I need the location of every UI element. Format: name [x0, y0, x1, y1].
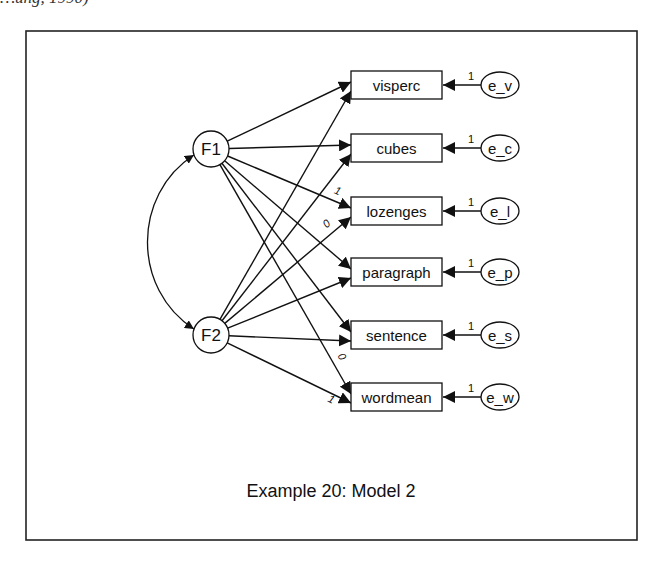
latent-factor-F2: F2 — [193, 317, 229, 353]
error-term-e_l: 1e_l — [443, 196, 519, 224]
observed-variable-cubes: cubes — [351, 134, 442, 162]
error-label: e_w — [486, 389, 514, 406]
path-label: 1 — [333, 184, 343, 197]
error-label: e_c — [488, 140, 513, 157]
path-label: 0 — [335, 351, 349, 363]
factor-label: F2 — [201, 326, 221, 345]
error-term-e_w: 1e_w — [443, 382, 519, 410]
error-term-e_s: 1e_s — [443, 320, 519, 348]
error-label: e_s — [488, 327, 512, 344]
observed-label: sentence — [366, 327, 427, 344]
diagram-caption: Example 20: Model 2 — [246, 481, 415, 501]
observed-label: lozenges — [366, 203, 426, 220]
path-F2-sentence — [229, 336, 351, 341]
covariance-arc — [147, 155, 193, 329]
error-label: e_p — [487, 264, 512, 281]
nodes: F1F2visperc1e_vcubes1e_clozenges1e_lpara… — [193, 70, 519, 411]
error-term-e_p: 1e_p — [443, 257, 519, 285]
error-label: e_v — [488, 77, 513, 94]
observed-variable-lozenges: lozenges — [351, 197, 442, 225]
error-term-e_c: 1e_c — [443, 133, 519, 161]
error-path-label: 1 — [468, 382, 474, 394]
path-F1-lozenges — [228, 156, 351, 208]
factor-label: F1 — [201, 140, 221, 159]
path-F2-visperc — [220, 91, 351, 319]
error-term-e_v: 1e_v — [443, 70, 519, 98]
error-path-label: 1 — [468, 70, 474, 82]
latent-factor-F1: F1 — [193, 131, 229, 167]
observed-label: wordmean — [360, 389, 431, 406]
observed-variable-visperc: visperc — [351, 71, 442, 99]
observed-variable-sentence: sentence — [351, 321, 442, 349]
observed-label: paragraph — [362, 264, 430, 281]
path-F2-cubes — [222, 154, 351, 321]
observed-variable-wordmean: wordmean — [351, 383, 442, 411]
path-F1-cubes — [229, 145, 351, 148]
observed-label: visperc — [373, 77, 421, 94]
path-F1-paragraph — [225, 161, 351, 269]
observed-label: cubes — [376, 140, 416, 157]
path-label: 1 — [326, 392, 337, 405]
error-path-label: 1 — [468, 320, 474, 332]
path-F1-sentence — [222, 163, 351, 332]
error-path-label: 1 — [468, 257, 474, 269]
regression-paths: 1001 — [220, 82, 351, 406]
covariance-F1-F2 — [147, 155, 193, 329]
error-label: e_l — [490, 203, 510, 220]
path-diagram: 1001 F1F2visperc1e_vcubes1e_clozenges1e_… — [0, 0, 660, 562]
path-F1-visperc — [227, 82, 351, 141]
error-path-label: 1 — [468, 196, 474, 208]
error-path-label: 1 — [468, 133, 474, 145]
observed-variable-paragraph: paragraph — [351, 258, 442, 286]
path-label: 0 — [320, 216, 333, 230]
